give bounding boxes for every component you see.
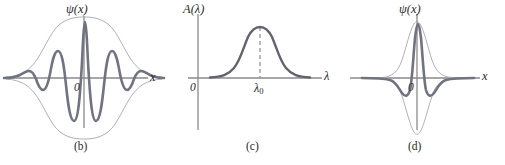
panel-c-x-axis-label: λ <box>324 70 329 83</box>
panel-d-caption: (d) <box>408 141 421 153</box>
panel-d-origin-label: 0 <box>408 82 414 94</box>
panel-b-caption: (b) <box>74 141 87 153</box>
panel-c-origin-label: 0 <box>190 82 196 94</box>
panel-b-origin-label: 0 <box>74 82 80 94</box>
panel-d-y-axis-label: ψ(x) <box>399 3 421 16</box>
physics-figure: ψ(x) x 0 (b) A(λ) λ 0 λ0 (c) <box>0 0 505 165</box>
panel-b-x-axis-label: x <box>150 71 156 84</box>
panel-b: ψ(x) x 0 (b) <box>0 0 170 165</box>
panel-b-y-axis-label: ψ(x) <box>66 3 88 16</box>
panel-d: ψ(x) x 0 (d) <box>340 0 505 165</box>
panel-c-y-axis-label: A(λ) <box>183 3 204 16</box>
panel-c-peak-tick-label: λ0 <box>254 82 264 96</box>
panel-c-caption: (c) <box>246 141 259 153</box>
panel-c-peak-tick-subscript: 0 <box>259 86 263 96</box>
panel-c: A(λ) λ 0 λ0 (c) <box>170 0 340 165</box>
panel-d-x-axis-label: x <box>482 70 488 83</box>
panel-d-wave-curve <box>362 24 474 96</box>
panel-d-plot <box>340 0 505 165</box>
